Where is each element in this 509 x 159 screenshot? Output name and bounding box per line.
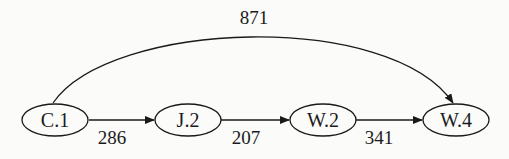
edge-w2-w4: 341 xyxy=(356,120,422,148)
node-w4: W.4 xyxy=(423,104,489,136)
edge-c1-w4: 871 xyxy=(53,7,453,103)
node-w2: W.2 xyxy=(290,104,356,136)
edge-label-871: 871 xyxy=(240,7,269,28)
node-label: J.2 xyxy=(177,109,200,131)
node-j2: J.2 xyxy=(155,104,221,136)
node-label: W.2 xyxy=(307,109,339,131)
edge-label-207: 207 xyxy=(232,127,261,148)
edge-label-286: 286 xyxy=(98,127,127,148)
node-label: C.1 xyxy=(41,109,69,131)
edge-label-341: 341 xyxy=(365,127,394,148)
edge-j2-w2: 207 xyxy=(221,120,289,148)
edge-c1-j2: 286 xyxy=(89,120,154,148)
node-label: W.4 xyxy=(440,109,472,131)
edge-path-curved xyxy=(53,37,453,103)
node-c1: C.1 xyxy=(22,104,88,136)
graph-diagram: 871 286 207 341 C.1 J.2 W.2 xyxy=(0,0,509,159)
